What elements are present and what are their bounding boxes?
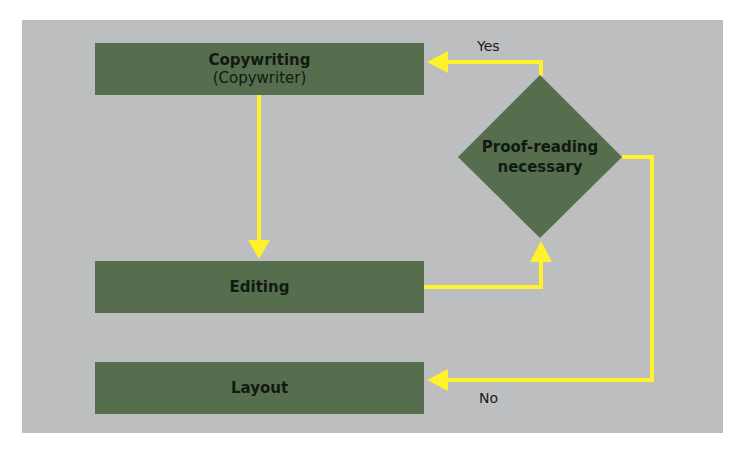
arrowhead-left-icon [427,369,448,391]
node-editing: Editing [95,261,424,313]
node-sublabel: (Copywriter) [213,69,307,87]
edge-editing-proofreading [424,262,541,287]
node-label: Layout [231,379,288,397]
node-copywriting: Copywriting (Copywriter) [95,43,424,95]
node-layout: Layout [95,362,424,414]
edge-yes [448,62,541,76]
node-label-line2: necessary [470,157,610,177]
arrowhead-left-icon [427,51,448,73]
arrowhead-up-icon [530,241,552,262]
node-label: Copywriting [209,51,311,69]
edge-label-no: No [479,390,498,406]
node-label: Editing [230,278,290,296]
arrowhead-down-icon [248,240,270,259]
edge-label-yes: Yes [477,38,500,54]
node-label-line1: Proof-reading [470,137,610,157]
node-proofreading: Proof-reading necessary [470,137,610,177]
